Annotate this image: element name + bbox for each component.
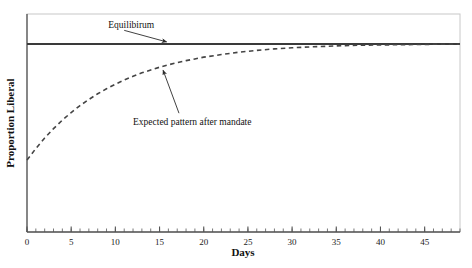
x-tick-label: 30 bbox=[288, 237, 298, 247]
x-tick-label: 20 bbox=[199, 237, 209, 247]
x-tick-label: 15 bbox=[155, 237, 165, 247]
x-tick-label: 0 bbox=[25, 237, 30, 247]
x-axis-tick-labels: 051015202530354045 bbox=[25, 237, 430, 247]
y-axis-title: Proportion Liberal bbox=[4, 78, 16, 167]
chart-figure: 051015202530354045 EquilibirumExpected p… bbox=[0, 0, 472, 268]
x-tick-label: 35 bbox=[332, 237, 342, 247]
x-tick-label: 45 bbox=[420, 237, 430, 247]
annotation-label: Expected pattern after mandate bbox=[133, 117, 251, 127]
proportion-liberal-chart: 051015202530354045 EquilibirumExpected p… bbox=[0, 0, 472, 268]
annotation-label: Equilibirum bbox=[108, 20, 155, 30]
x-axis-title: Days bbox=[231, 246, 255, 258]
x-tick-label: 5 bbox=[69, 237, 74, 247]
x-tick-label: 40 bbox=[376, 237, 386, 247]
x-tick-label: 10 bbox=[111, 237, 121, 247]
